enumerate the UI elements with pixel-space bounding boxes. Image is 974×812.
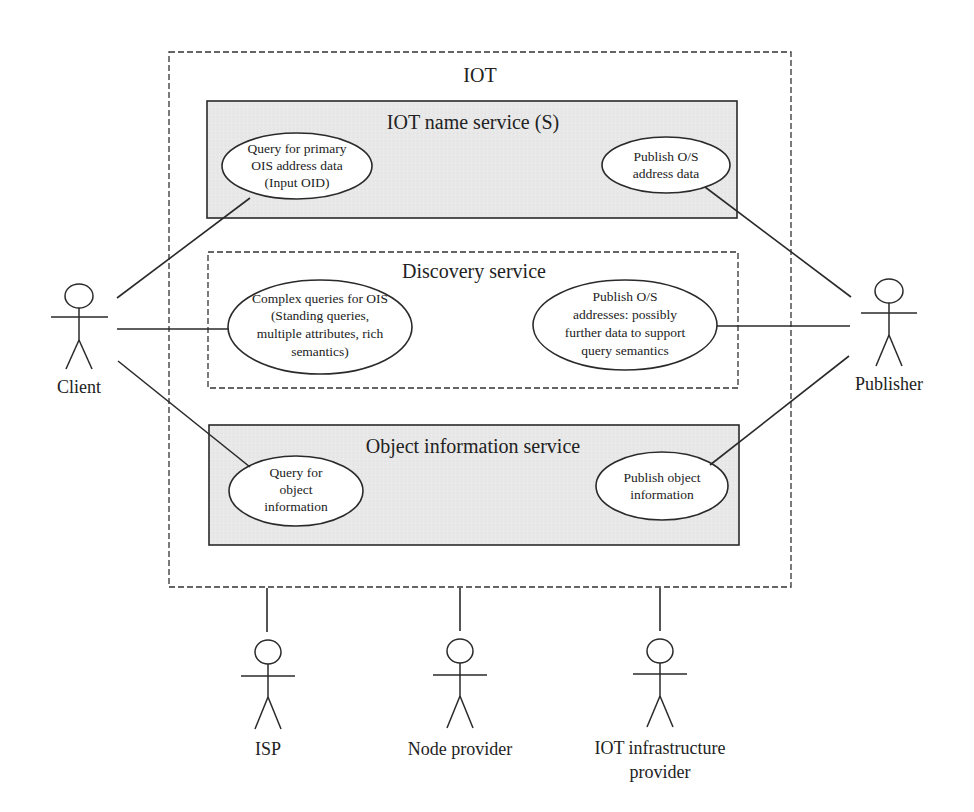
use-case-line: (Input OID): [265, 175, 330, 190]
use-case-line: Publish object: [624, 470, 701, 485]
use-case-publish-object-information[interactable]: Publish object information: [596, 452, 728, 520]
use-case-line: semantics): [291, 344, 349, 359]
actor-head-icon: [255, 640, 281, 664]
actor-label: Client: [57, 377, 101, 397]
actor-node-provider[interactable]: Node provider: [408, 639, 512, 759]
use-case-line: Publish O/S: [593, 289, 658, 304]
actor-head-icon: [447, 639, 473, 663]
use-case-line: Complex queries for OIS: [252, 291, 388, 306]
service-title: Object information service: [366, 435, 580, 458]
use-case-line: OIS address data: [251, 158, 342, 173]
use-case-line: addresses: possibly: [573, 307, 677, 322]
use-case-line: Query for: [270, 465, 323, 480]
use-case-complex-queries-ois[interactable]: Complex queries for OIS (Standing querie…: [228, 280, 412, 374]
use-case-line: query semantics: [581, 343, 668, 358]
client-to-query-primary-line: [117, 198, 250, 298]
actor-head-icon: [647, 639, 673, 663]
use-case-line: (Standing queries,: [271, 308, 369, 323]
service-title: IOT name service (S): [387, 111, 559, 134]
actor-label: Node provider: [408, 739, 512, 759]
actor-label: IOT infrastructure: [594, 738, 725, 758]
actor-head-icon: [65, 284, 93, 308]
service-title: Discovery service: [402, 260, 546, 283]
client-to-query-object-line: [118, 361, 250, 467]
actor-label: ISP: [255, 739, 281, 759]
publisher-to-publish-address-line: [705, 187, 851, 297]
use-case-line: multiple attributes, rich: [257, 326, 384, 341]
object-information-service-box: Object information service Query for obj…: [209, 425, 739, 545]
association-lines: [117, 187, 851, 632]
actor-client[interactable]: Client: [51, 284, 108, 397]
use-case-line: address data: [633, 166, 699, 181]
actor-label: Publisher: [855, 374, 923, 394]
system-title: IOT: [463, 64, 496, 86]
use-case-line: Publish O/S: [634, 149, 699, 164]
actor-iot-infrastructure-provider[interactable]: IOT infrastructure provider: [594, 639, 725, 782]
use-case-query-primary-ois[interactable]: Query for primary OIS address data (Inpu…: [222, 133, 372, 199]
use-case-line: information: [264, 499, 328, 514]
publisher-to-publish-object-line: [710, 356, 849, 465]
iot-name-service-box: IOT name service (S) Query for primary O…: [207, 101, 737, 218]
actor-head-icon: [875, 279, 903, 303]
use-case-line: Query for primary: [248, 141, 347, 156]
actor-publisher[interactable]: Publisher: [855, 279, 923, 394]
use-case-line: further data to support: [565, 325, 686, 340]
use-case-line: object: [280, 482, 313, 497]
actor-label: provider: [630, 762, 691, 782]
use-case-publish-os-address-data[interactable]: Publish O/S address data: [602, 137, 730, 193]
iot-use-case-diagram: IOT IOT name service (S) Query for prima…: [0, 0, 974, 812]
use-case-line: information: [630, 487, 694, 502]
discovery-service-box: Discovery service Complex queries for OI…: [208, 252, 738, 388]
use-case-publish-os-addresses[interactable]: Publish O/S addresses: possibly further …: [533, 280, 717, 370]
actor-isp[interactable]: ISP: [241, 640, 295, 759]
